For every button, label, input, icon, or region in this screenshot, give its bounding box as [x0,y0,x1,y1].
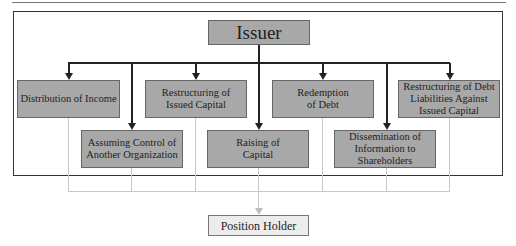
node-label: Restructuring of Debt Liabilities Agains… [402,81,496,117]
feed-line [449,118,450,191]
node-label: Dissemination of Information to Sharehol… [347,131,423,167]
feed-line [68,118,69,191]
node-position-holder: Position Holder [208,215,309,236]
arrow-down-icon [192,73,200,80]
node-label: Raising of Capital [234,137,282,161]
connector-raising-capital [258,63,260,124]
arrow-down-icon [383,123,391,130]
feed-line [322,118,323,191]
page-top-rule [12,2,506,3]
node-label: Distribution of Income [20,93,116,105]
node-assuming-control: Assuming Control of Another Organization [81,130,183,168]
feed-line [195,118,196,191]
collector-line [68,191,450,192]
node-label: Restructuring of Issued Capital [160,87,232,111]
issuer-label: Issuer [236,22,281,44]
connector-assuming-control [131,63,133,124]
node-restructuring-issued-capital: Restructuring of Issued Capital [145,80,247,118]
node-label: Redemption of Debt [295,87,351,111]
arrow-down-icon [65,73,73,80]
node-dissemination-of-information: Dissemination of Information to Sharehol… [334,130,436,168]
node-redemption-of-debt: Redemption of Debt [272,80,374,118]
node-label: Assuming Control of Another Organization [86,137,178,161]
arrow-down-icon [446,73,454,80]
node-restructuring-debt-liabilities: Restructuring of Debt Liabilities Agains… [398,80,500,118]
node-raising-of-capital: Raising of Capital [207,130,309,168]
node-distribution-of-income: Distribution of Income [17,80,120,118]
connector-dissemination [386,63,388,124]
feed-to-holder-line [258,168,259,210]
issuer-node: Issuer [208,20,310,45]
feed-line [386,168,387,191]
arrow-down-icon [128,123,136,130]
node-label: Position Holder [221,220,297,232]
feed-line [131,168,132,191]
trunk-connector [258,45,260,63]
arrow-down-icon [255,123,263,130]
arrow-down-icon [255,208,263,215]
arrow-down-icon [319,73,327,80]
